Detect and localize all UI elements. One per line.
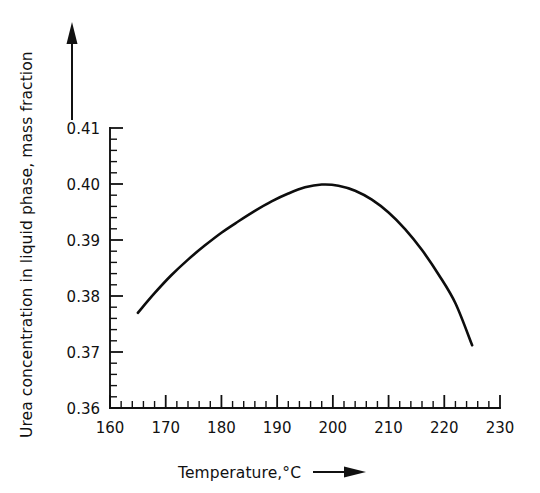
y-axis-title-text: Urea concentration in liquid phase, mass… bbox=[18, 51, 36, 438]
y-tick-label: 0.36 bbox=[67, 400, 100, 418]
x-tick-label: 170 bbox=[151, 419, 180, 437]
y-tick-label: 0.39 bbox=[67, 232, 100, 250]
chart-figure: Urea concentration in liquid phase, mass… bbox=[0, 0, 540, 493]
x-tick-label: 160 bbox=[96, 419, 125, 437]
y-tick-label: 0.41 bbox=[67, 120, 100, 138]
y-tick-label: 0.37 bbox=[67, 344, 100, 362]
x-tick-label: 190 bbox=[263, 419, 292, 437]
y-tick-label: 0.38 bbox=[67, 288, 100, 306]
x-tick-label: 220 bbox=[430, 419, 459, 437]
x-axis-title-text: Temperature,°C bbox=[177, 464, 301, 482]
y-tick-label: 0.40 bbox=[67, 176, 100, 194]
x-tick-label: 230 bbox=[486, 419, 515, 437]
y-axis-title: Urea concentration in liquid phase, mass… bbox=[18, 51, 36, 438]
x-tick-label: 210 bbox=[374, 419, 403, 437]
urea-concentration-vs-temperature-chart: Urea concentration in liquid phase, mass… bbox=[0, 0, 540, 493]
x-tick-label: 180 bbox=[207, 419, 236, 437]
x-tick-label: 200 bbox=[319, 419, 348, 437]
